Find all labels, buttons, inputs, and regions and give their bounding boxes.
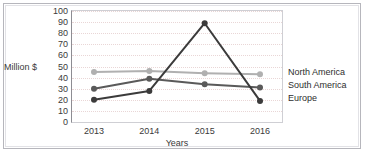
x-axis-tick-labels: 2013201420152016 (71, 126, 283, 138)
series-line (94, 71, 260, 74)
data-point (91, 97, 97, 103)
legend-item-north-america: North America (288, 66, 364, 79)
y-axis-title: Million $ (4, 62, 37, 72)
series-line (94, 23, 260, 101)
data-point (91, 69, 97, 75)
y-axis-tick-label: 30 (58, 84, 68, 94)
data-point (257, 98, 263, 104)
y-axis-tick-label: 50 (58, 62, 68, 72)
legend-item-south-america: South America (288, 79, 364, 92)
y-axis-tick-label: 100 (53, 6, 68, 16)
chart-legend: North AmericaSouth AmericaEurope (288, 66, 364, 105)
data-point (91, 86, 97, 92)
y-axis-tick-label: 40 (58, 73, 68, 83)
data-point (146, 76, 152, 82)
x-axis-title: Years (71, 138, 283, 149)
y-axis-tick-label: 90 (58, 17, 68, 27)
chart-screenshot: Million $ 0102030405060708090100 2013201… (0, 0, 366, 160)
y-axis-tick-label: 70 (58, 39, 68, 49)
y-axis-tick-label: 60 (58, 50, 68, 60)
series-europe (91, 20, 263, 104)
data-point (146, 88, 152, 94)
plot-area (71, 10, 283, 123)
y-axis-tick-label: 20 (58, 95, 68, 105)
x-axis-tick-label: 2013 (84, 126, 104, 137)
data-point (257, 71, 263, 77)
data-point (202, 20, 208, 26)
data-point (257, 85, 263, 91)
series-layer (72, 11, 282, 122)
legend-item-label: Europe (288, 93, 317, 103)
data-point (146, 68, 152, 74)
series-line (94, 79, 260, 89)
line-chart: Million $ 0102030405060708090100 2013201… (0, 0, 366, 160)
legend-item-label: North America (288, 67, 345, 77)
data-point (202, 70, 208, 76)
y-axis-tick-label: 10 (58, 106, 68, 116)
legend-item-label: South America (288, 80, 347, 90)
y-axis-tick-label: 80 (58, 28, 68, 38)
x-axis-tick-label: 2016 (250, 126, 270, 137)
data-point (202, 81, 208, 87)
x-axis-tick-label: 2014 (139, 126, 159, 137)
series-south-america (91, 76, 263, 92)
y-axis-tick-label: 0 (63, 117, 68, 127)
y-axis-tick-labels: 0102030405060708090100 (44, 5, 68, 128)
x-axis-tick-label: 2015 (195, 126, 215, 137)
legend-item-europe: Europe (288, 92, 364, 105)
